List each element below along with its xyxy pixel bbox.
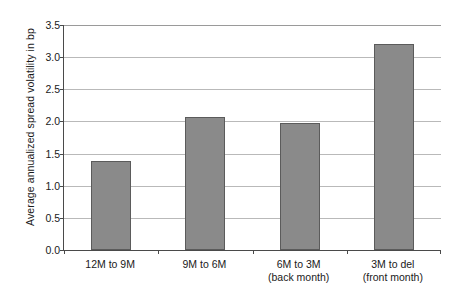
y-axis-tick-labels: 0.00.51.01.52.02.53.03.5 [34, 0, 60, 299]
y-tick-mark [60, 57, 64, 58]
x-tick-label: 3M to del(front month) [346, 258, 440, 284]
x-tick-label-sub: (front month) [346, 271, 440, 284]
x-tick-label: 9M to 6M [157, 258, 251, 271]
y-tick-label: 0.0 [34, 245, 60, 256]
plot-area [63, 25, 441, 251]
x-tick-label-main: 6M to 3M [277, 258, 321, 270]
bar-chart-figure: Average annualized spread volatility in … [0, 0, 461, 299]
x-axis-tick-labels: 12M to 9M9M to 6M6M to 3M(back month)3M … [63, 258, 440, 298]
y-tick-mark [60, 154, 64, 155]
x-axis-end-tick [440, 250, 441, 254]
bar [280, 123, 320, 250]
y-tick-mark [60, 121, 64, 122]
y-tick-label: 2.5 [34, 84, 60, 95]
y-tick-label: 1.5 [34, 148, 60, 159]
x-tick-label: 12M to 9M [63, 258, 157, 271]
x-tick-mark [158, 250, 159, 254]
y-tick-mark [60, 89, 64, 90]
y-tick-label: 0.5 [34, 212, 60, 223]
bar [185, 117, 225, 250]
y-tick-mark [60, 218, 64, 219]
x-tick-mark [253, 250, 254, 254]
y-tick-mark [60, 186, 64, 187]
x-tick-label: 6M to 3M(back month) [252, 258, 346, 284]
gridline [64, 25, 441, 26]
y-tick-label: 2.0 [34, 116, 60, 127]
x-tick-label-main: 9M to 6M [182, 258, 226, 270]
x-tick-label-main: 12M to 9M [85, 258, 135, 270]
x-tick-label-main: 3M to del [371, 258, 414, 270]
y-tick-label: 1.0 [34, 180, 60, 191]
x-tick-mark [347, 250, 348, 254]
y-tick-mark [60, 25, 64, 26]
x-tick-label-sub: (back month) [252, 271, 346, 284]
y-tick-label: 3.0 [34, 52, 60, 63]
bar [91, 161, 131, 250]
x-axis-end-tick [64, 250, 65, 254]
bar [374, 44, 414, 250]
y-tick-label: 3.5 [34, 20, 60, 31]
